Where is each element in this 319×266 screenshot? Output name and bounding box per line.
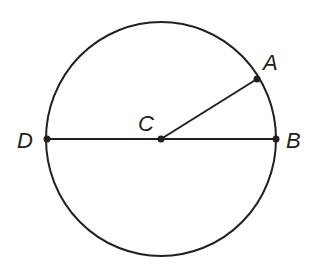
label-C: C [138, 111, 154, 136]
radius-CA [161, 79, 257, 139]
label-B: B [286, 128, 301, 153]
point-B [273, 136, 280, 143]
label-D: D [17, 128, 33, 153]
circle-diagram: A B C D [0, 0, 319, 266]
point-D [44, 136, 51, 143]
point-A [254, 76, 261, 83]
label-A: A [261, 50, 278, 75]
point-C [158, 136, 165, 143]
